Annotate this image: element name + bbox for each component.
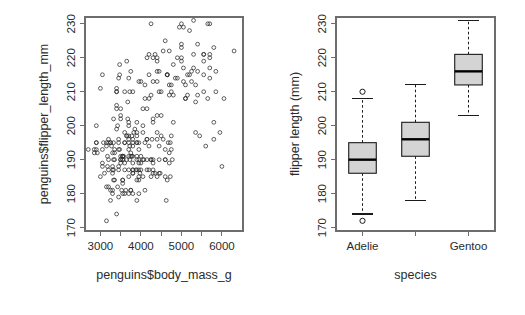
scatter-point	[164, 199, 168, 203]
boxplot-box	[455, 54, 483, 85]
scatter-point	[170, 158, 174, 162]
scatter-point	[141, 175, 145, 179]
figure-canvas: 3000400050006000170180190200210220230pen…	[0, 0, 525, 315]
scatter-point	[190, 80, 194, 84]
scatter-point	[208, 76, 212, 80]
scatter-point	[101, 73, 105, 77]
scatter-point	[150, 137, 154, 141]
scatter-point	[149, 175, 153, 179]
boxplot-ylabel: flipper length (mm)	[288, 72, 302, 176]
scatter-point	[192, 52, 196, 56]
scatter-point	[155, 80, 159, 84]
scatter-point	[123, 168, 127, 172]
scatter-point	[112, 117, 116, 121]
scatter-point	[118, 63, 122, 67]
scatter-point	[137, 148, 141, 152]
scatter-point	[202, 59, 206, 63]
scatter-point	[192, 19, 196, 23]
scatter-point	[212, 120, 216, 124]
scatter-points	[86, 19, 236, 223]
boxplot-ytick-label: 210	[316, 82, 328, 101]
boxplot-ytick-label: 220	[316, 48, 328, 67]
scatter-point	[141, 107, 145, 111]
scatter-point	[184, 97, 188, 101]
scatter-point	[232, 49, 236, 53]
scatter-point	[117, 195, 121, 199]
scatter-point	[163, 148, 167, 152]
scatter-point	[163, 175, 167, 179]
scatter-point	[163, 158, 167, 162]
boxplot-box	[349, 143, 377, 174]
scatter-point	[137, 192, 141, 196]
scatter-point	[161, 49, 165, 53]
scatter-point	[202, 73, 206, 77]
scatter-point	[98, 175, 102, 179]
scatter-point	[126, 100, 130, 104]
scatter-point	[143, 83, 147, 87]
scatter-point	[147, 73, 151, 77]
scatter-point	[151, 80, 155, 84]
scatter-point	[198, 134, 202, 138]
scatter-point	[109, 199, 113, 203]
scatter-point	[194, 100, 198, 104]
scatter-point	[192, 66, 196, 70]
scatter-point	[169, 134, 173, 138]
scatter-ytick-label: 170	[65, 218, 77, 237]
scatter-point	[106, 154, 110, 158]
boxplot-xtick-label: Gentoo	[450, 240, 488, 252]
scatter-point	[151, 56, 155, 60]
scatter-point	[159, 114, 163, 118]
scatter-xtick-label: 3000	[88, 240, 114, 252]
scatter-point	[120, 188, 124, 192]
boxplot-outlier	[360, 89, 365, 94]
scatter-xtick-label: 4000	[128, 240, 154, 252]
scatter-point	[175, 56, 179, 60]
scatter-point	[167, 93, 171, 97]
scatter-point	[103, 171, 107, 175]
scatter-point	[202, 52, 206, 56]
scatter-point	[123, 141, 127, 145]
scatter-ytick-label: 180	[65, 184, 77, 203]
scatter-point	[157, 144, 161, 148]
scatter-point	[116, 185, 120, 189]
scatter-point	[155, 137, 159, 141]
scatter-point	[86, 148, 90, 152]
scatter-point	[168, 175, 172, 179]
scatter-point	[212, 46, 216, 50]
scatter-point	[147, 52, 151, 56]
boxplot-ytick-label: 170	[316, 218, 328, 237]
scatter-point	[135, 120, 139, 124]
scatter-point	[206, 97, 210, 101]
scatter-point	[222, 97, 226, 101]
boxplot-ytick-label: 180	[316, 184, 328, 203]
scatter-point	[182, 25, 186, 29]
scatter-point	[149, 22, 153, 26]
scatter-point	[123, 90, 127, 94]
scatter-point	[167, 161, 171, 165]
scatter-point	[133, 127, 137, 131]
scatter-point	[115, 212, 119, 216]
boxplot-outlier	[360, 218, 365, 223]
scatter-point	[212, 137, 216, 141]
scatter-point	[115, 127, 119, 131]
scatter-point	[127, 168, 131, 172]
scatter-point	[127, 76, 131, 80]
scatter-point	[106, 165, 110, 169]
scatter-ytick-label: 220	[65, 48, 77, 67]
scatter-point	[147, 97, 151, 101]
scatter-xlabel: penguins$body_mass_g	[96, 268, 232, 282]
scatter-point	[188, 29, 192, 33]
scatter-point	[127, 148, 131, 152]
scatter-point	[169, 148, 173, 152]
scatter-point	[131, 161, 135, 165]
scatter-point	[171, 63, 175, 67]
scatter-point	[194, 83, 198, 87]
scatter-point	[143, 97, 147, 101]
scatter-point	[127, 175, 131, 179]
scatter-point	[202, 90, 206, 94]
scatter-point	[167, 49, 171, 53]
boxplot-xlabel: species	[394, 268, 436, 282]
scatter-point	[163, 39, 167, 43]
scatter-point	[135, 199, 139, 203]
scatter-point	[141, 124, 145, 128]
